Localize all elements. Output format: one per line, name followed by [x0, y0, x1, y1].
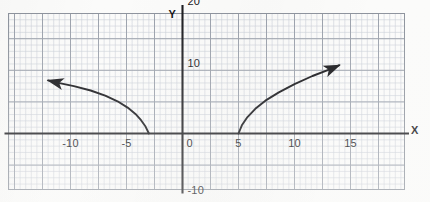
y-axis-label: Y: [169, 8, 176, 20]
y-tick-neg10: -10: [188, 184, 205, 196]
x-axis-label: X: [411, 124, 418, 136]
y-tick-20: 20: [188, 0, 201, 7]
x-tick-origin: 0: [187, 137, 193, 149]
x-tick-15: 15: [344, 137, 357, 149]
coordinate-plane-svg: [0, 0, 430, 202]
x-tick-10: 10: [288, 137, 301, 149]
graph-figure: -10-50510152010-10 X Y: [0, 0, 430, 202]
x-tick-5: 5: [235, 137, 241, 149]
y-tick-10: 10: [188, 57, 201, 69]
x-tick-neg10: -10: [62, 137, 79, 149]
x-tick-neg5: -5: [121, 137, 131, 149]
